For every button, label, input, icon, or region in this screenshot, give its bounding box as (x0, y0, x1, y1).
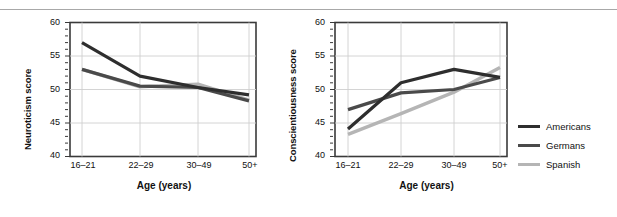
line-swatch-icon (518, 125, 540, 128)
y-tick-label: 50 (303, 84, 325, 94)
legend-item-americans[interactable]: Americans (518, 117, 617, 136)
line-swatch-icon (518, 163, 540, 166)
legend-item-label: Spanish (546, 159, 580, 170)
legend: Americans Germans Spanish (518, 117, 617, 174)
plot-area-conscientiousness (329, 20, 513, 160)
x-tick-label: 50+ (483, 160, 517, 170)
y-axis-label: Conscientiousness score (287, 22, 298, 162)
figure: Neuroticism score 60 55 50 45 40 (0, 0, 617, 217)
y-tick-label: 60 (38, 17, 60, 27)
legend-item-label: Americans (546, 121, 591, 132)
x-tick-label: 22–29 (124, 160, 158, 170)
x-axis-label: Age (years) (339, 180, 514, 191)
y-tick-label: 50 (38, 84, 60, 94)
chart-panel-conscientiousness: Conscientiousness score 60 55 50 45 40 (284, 0, 514, 217)
y-tick-label: 40 (303, 150, 325, 160)
x-tick-label: 16–21 (331, 160, 365, 170)
y-tick-label: 60 (303, 17, 325, 27)
x-tick-label: 16–21 (66, 160, 100, 170)
line-swatch-icon (518, 144, 540, 147)
x-axis-label: Age (years) (74, 180, 254, 191)
x-tick-label: 50+ (233, 160, 267, 170)
y-tick-label: 55 (38, 50, 60, 60)
legend-item-germans[interactable]: Germans (518, 136, 617, 155)
legend-item-label: Germans (546, 140, 585, 151)
y-tick-label: 45 (38, 117, 60, 127)
y-tick-label: 40 (38, 150, 60, 160)
x-tick-label: 30–49 (182, 160, 216, 170)
y-tick-label: 45 (303, 117, 325, 127)
y-axis-label: Neuroticism score (22, 30, 33, 150)
chart-panel-neuroticism: Neuroticism score 60 55 50 45 40 (0, 0, 290, 217)
x-tick-label: 22–29 (384, 160, 418, 170)
x-tick-label: 30–49 (437, 160, 471, 170)
y-tick-label: 55 (303, 50, 325, 60)
plot-area-neuroticism (64, 20, 258, 160)
legend-item-spanish[interactable]: Spanish (518, 155, 617, 174)
